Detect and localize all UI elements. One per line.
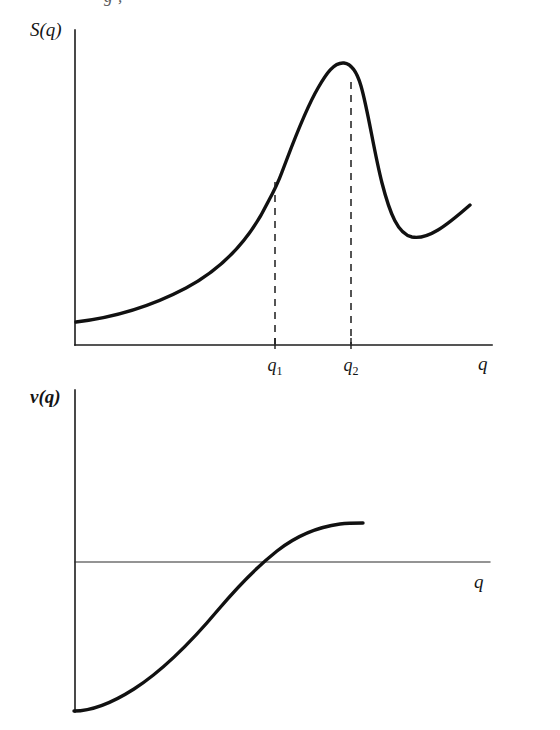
y-axis-label-panel1: S(q) — [30, 19, 62, 41]
panel-effective-potential: v(q) q — [30, 386, 490, 712]
figure-root: g , q1 q2 S(q) q — [0, 0, 560, 730]
curve-effective-potential — [74, 523, 363, 711]
tick-label-q1: q1 — [268, 355, 283, 378]
x-axis-label-panel1: q — [478, 353, 488, 374]
figure-canvas: q1 q2 S(q) q v(q) q — [0, 0, 560, 730]
tick-label-q2: q2 — [344, 355, 359, 378]
panel-structure-factor: q1 q2 S(q) q — [30, 19, 492, 378]
curve-structure-factor — [76, 63, 470, 322]
x-axis-label-panel2: q — [474, 571, 484, 592]
y-axis-label-panel2: v(q) — [30, 386, 61, 408]
